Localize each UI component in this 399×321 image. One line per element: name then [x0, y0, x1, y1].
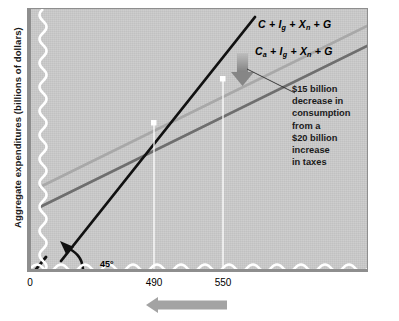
- downward-shift-arrow: [231, 53, 254, 86]
- eq2-x-sub: n: [307, 50, 312, 59]
- eq2-c-sub: a: [263, 50, 267, 59]
- annotation-line-6: increase: [292, 144, 378, 156]
- x-tick-490: 490: [139, 277, 169, 288]
- eq-g: G: [323, 18, 331, 30]
- output-decrease-arrow: [145, 297, 227, 313]
- annotation-line-5: $20 billion: [292, 132, 378, 144]
- eq-c: C: [258, 18, 266, 30]
- shift-annotation: $15 billion decrease in consumption from…: [292, 83, 378, 168]
- x-tick-0: 0: [20, 277, 40, 288]
- eq2-plus-1: +: [267, 45, 280, 57]
- annotation-line-1: $15 billion: [292, 83, 378, 95]
- series-label-original: C + Ig + Xn + G: [258, 18, 331, 30]
- eq2-plus-3: +: [312, 45, 325, 57]
- line-45-degree: [61, 17, 255, 261]
- eq2-x: X: [300, 45, 307, 57]
- annotation-line-4: from a: [292, 120, 378, 132]
- annotation-line-3: consumption: [292, 107, 378, 119]
- eq-plus-2: +: [286, 18, 299, 30]
- annotation-line-2: decrease in: [292, 95, 378, 107]
- eq2-c: C: [255, 45, 263, 57]
- angle-label: 45°: [100, 259, 114, 269]
- annotation-line-7: in taxes: [292, 156, 378, 168]
- eq2-plus-2: +: [287, 45, 300, 57]
- eq-plus-1: +: [266, 18, 279, 30]
- equilibrium-marker-490: [151, 120, 157, 126]
- series-label-shifted: Ca + Ig + Xn + G: [255, 45, 333, 57]
- eq-x-sub: n: [306, 23, 311, 32]
- eq-x: X: [299, 18, 306, 30]
- axis-break-wave-vertical: [40, 9, 47, 270]
- eq-plus-3: +: [310, 18, 323, 30]
- x-tick-550: 550: [208, 277, 238, 288]
- eq2-g: G: [324, 45, 332, 57]
- eq2-i-sub: g: [283, 50, 288, 59]
- eq-i-sub: g: [282, 23, 287, 32]
- axis-break-wave-horizontal: [31, 265, 368, 271]
- y-axis-label: Aggregate expenditures (billions of doll…: [12, 23, 23, 233]
- equilibrium-marker-550: [220, 76, 226, 82]
- aggregate-expenditures-figure: Aggregate expenditures (billions of doll…: [0, 0, 399, 321]
